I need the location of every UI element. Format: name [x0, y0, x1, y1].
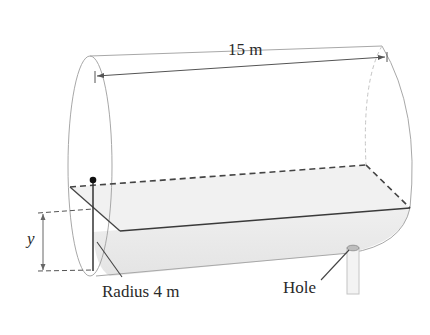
arrowhead-up-icon	[41, 214, 46, 220]
left-end-ellipse	[68, 56, 112, 276]
radius-label: Radius 4 m	[102, 282, 179, 301]
right-end-hidden-arc	[365, 46, 382, 165]
hole-label: Hole	[283, 278, 316, 297]
cylinder-tank-diagram: 15 m y Radius 4 m Hole	[0, 0, 430, 335]
arrowhead-down-icon	[41, 264, 46, 270]
drain-pipe	[347, 248, 359, 294]
depth-dimension	[38, 209, 93, 271]
center-dot-icon	[90, 177, 97, 184]
depth-label: y	[25, 229, 35, 248]
length-label: 15 m	[228, 40, 262, 59]
